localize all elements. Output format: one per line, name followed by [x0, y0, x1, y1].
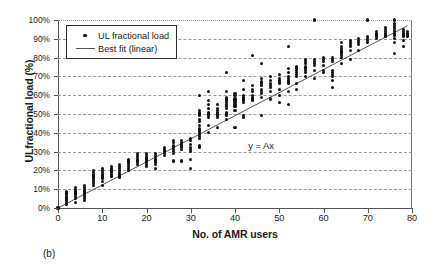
data-point	[260, 77, 263, 80]
x-tick-label: 40	[220, 213, 250, 223]
legend-label-fit: Best fit (linear)	[98, 44, 157, 54]
data-point	[216, 107, 219, 110]
data-point	[287, 103, 290, 106]
data-point	[260, 80, 263, 83]
data-point	[92, 175, 95, 178]
data-point	[340, 41, 343, 44]
data-point	[331, 79, 334, 82]
data-point	[278, 73, 281, 76]
y-tick-mark	[54, 152, 58, 153]
data-point	[216, 103, 219, 106]
data-point	[163, 154, 166, 157]
legend-item-fit: Best fit (linear)	[72, 42, 169, 55]
data-point	[278, 88, 281, 91]
data-point	[198, 127, 201, 130]
x-tick-label: 60	[309, 213, 339, 223]
diamond-marker-icon	[72, 34, 98, 38]
x-tick-label: 10	[87, 213, 117, 223]
data-point	[269, 97, 272, 100]
data-point	[349, 58, 352, 61]
data-point	[145, 157, 148, 160]
data-point	[172, 144, 175, 147]
y-tick-label: 60%	[16, 90, 50, 100]
data-point	[198, 109, 201, 112]
y-tick-mark	[54, 170, 58, 171]
data-point	[402, 39, 405, 42]
data-point	[225, 118, 228, 121]
data-point	[207, 124, 210, 127]
legend: UL fractional load Best fit (linear)	[66, 25, 177, 59]
x-axis-title: No. of AMR users	[58, 228, 412, 240]
data-point	[233, 126, 236, 129]
y-tick-mark	[54, 189, 58, 190]
data-point	[225, 111, 228, 114]
legend-item-scatter: UL fractional load	[72, 29, 169, 42]
data-point	[207, 111, 210, 114]
x-tick-label: 80	[397, 213, 427, 223]
y-tick-label: 100%	[16, 15, 50, 25]
data-point	[207, 107, 210, 110]
data-point	[225, 71, 228, 74]
data-point	[198, 94, 201, 97]
y-tick-label: 50%	[16, 109, 50, 119]
data-point	[322, 64, 325, 67]
y-tick-label: 20%	[16, 165, 50, 175]
data-point	[216, 126, 219, 129]
data-point	[313, 18, 316, 21]
x-tick-label: 30	[176, 213, 206, 223]
y-tick-label: 70%	[16, 71, 50, 81]
data-point	[278, 94, 281, 97]
data-point	[251, 94, 254, 97]
data-point	[74, 190, 77, 193]
data-point	[402, 28, 405, 31]
data-point	[269, 75, 272, 78]
data-point	[154, 167, 157, 170]
data-point	[393, 41, 396, 44]
data-point	[198, 124, 201, 127]
data-point	[83, 189, 86, 192]
y-tick-mark	[54, 20, 58, 21]
data-point	[172, 139, 175, 142]
data-point	[340, 45, 343, 48]
data-point	[340, 62, 343, 65]
data-point	[198, 144, 201, 147]
data-point	[189, 158, 192, 161]
legend-label-scatter: UL fractional load	[98, 31, 169, 41]
data-point	[101, 167, 104, 170]
data-point	[92, 184, 95, 187]
data-point	[304, 65, 307, 68]
figure-panel: ULfractional load (%) y = Ax 0%10%20%30%…	[0, 0, 434, 271]
data-point	[189, 143, 192, 146]
data-point	[269, 90, 272, 93]
data-point	[225, 90, 228, 93]
data-point	[233, 97, 236, 100]
data-point	[260, 62, 263, 65]
x-tick-label: 70	[353, 213, 383, 223]
y-tick-mark	[54, 76, 58, 77]
data-point	[331, 56, 334, 59]
data-point	[233, 92, 236, 95]
y-tick-label: 0%	[16, 203, 50, 213]
data-point	[287, 75, 290, 78]
data-point	[313, 77, 316, 80]
line-segment-icon	[72, 48, 98, 49]
data-point	[101, 180, 104, 183]
x-tick-label: 50	[264, 213, 294, 223]
data-point	[207, 90, 210, 93]
y-tick-mark	[54, 39, 58, 40]
data-point	[287, 90, 290, 93]
data-point	[349, 39, 352, 42]
data-point	[402, 45, 405, 48]
data-point	[136, 159, 139, 162]
y-tick-mark	[54, 95, 58, 96]
figure-caption: (b)	[43, 248, 55, 259]
y-tick-label: 80%	[16, 53, 50, 63]
data-point	[375, 30, 378, 33]
data-point	[110, 170, 113, 173]
data-point	[349, 49, 352, 52]
data-point	[260, 96, 263, 99]
y-tick-label: 10%	[16, 184, 50, 194]
equation-annotation: y = Ax	[248, 140, 274, 151]
x-tick-label: 20	[132, 213, 162, 223]
x-tick-label: 0	[43, 213, 73, 223]
